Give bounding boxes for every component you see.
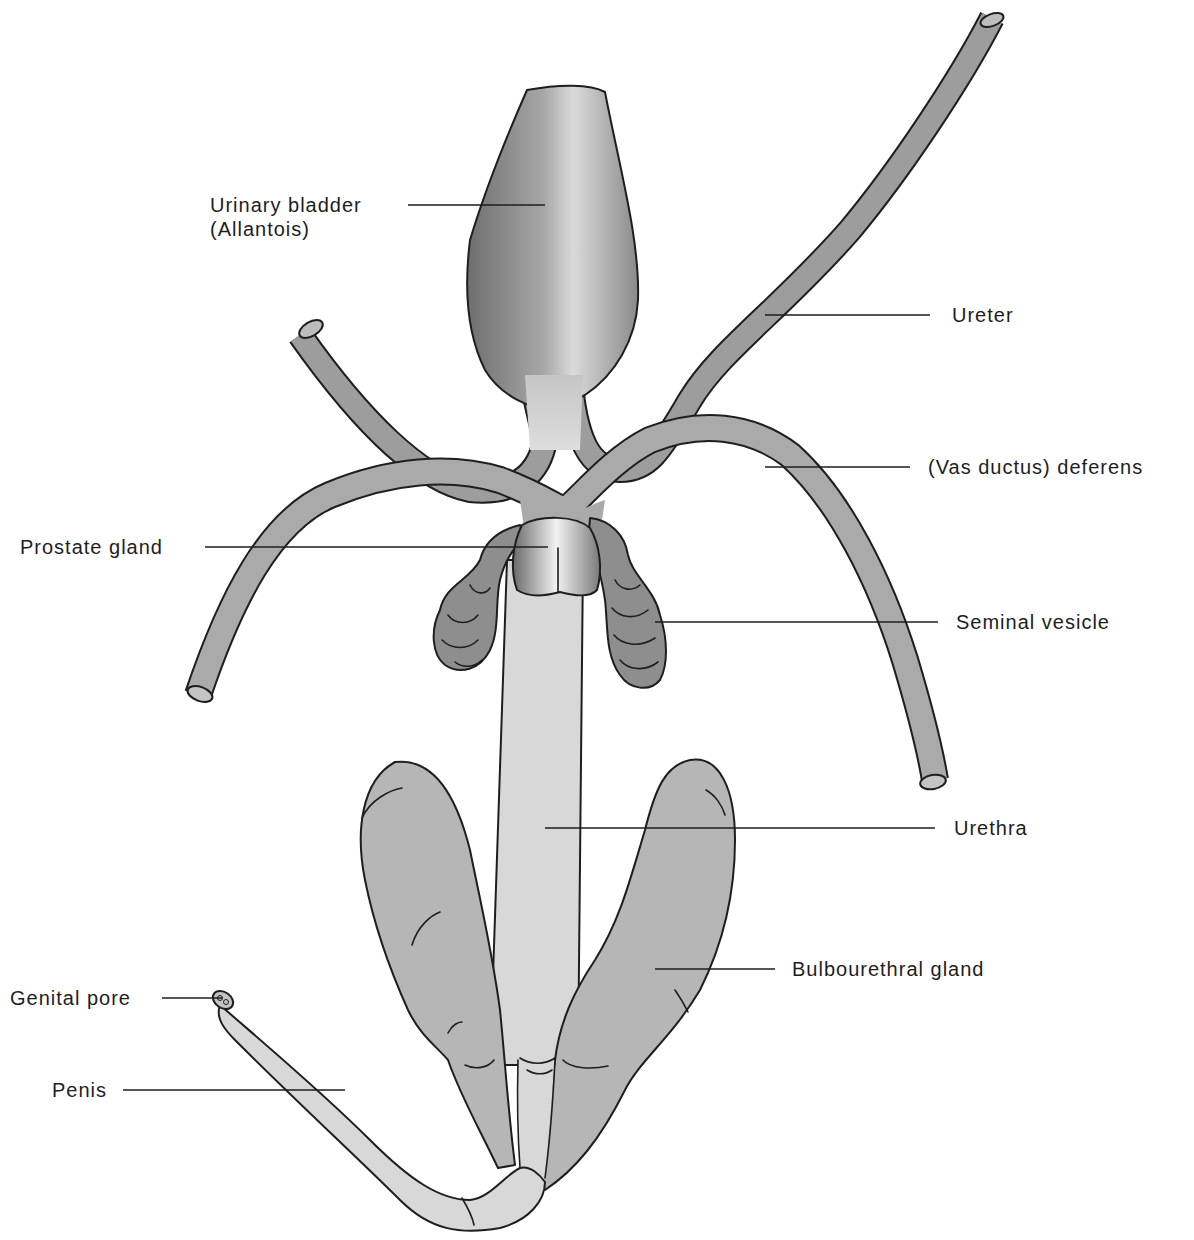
prostate-gland: [513, 518, 600, 596]
anatomy-diagram: Urinary bladder (Allantois) Ureter (Vas …: [0, 0, 1194, 1240]
label-urethra: Urethra: [954, 817, 1028, 839]
label-prostate-gland: Prostate gland: [20, 536, 163, 558]
urinary-bladder: [467, 86, 638, 450]
label-ureter: Ureter: [952, 304, 1014, 326]
urethra: [490, 560, 583, 1065]
label-genital-pore: Genital pore: [10, 987, 131, 1009]
label-urinary-bladder: Urinary bladder: [210, 194, 362, 216]
seminal-vesicle-right: [588, 518, 666, 688]
label-urinary-bladder-sub: (Allantois): [210, 218, 310, 240]
label-bulbourethral-gland: Bulbourethral gland: [792, 958, 984, 980]
bulbourethral-gland-left: [361, 762, 515, 1168]
label-seminal-vesicle: Seminal vesicle: [956, 611, 1110, 633]
label-penis: Penis: [52, 1079, 107, 1101]
label-vas-deferens: (Vas ductus) deferens: [928, 456, 1143, 478]
ureter-right: [570, 10, 1005, 470]
genital-pore-opening: [209, 987, 236, 1013]
